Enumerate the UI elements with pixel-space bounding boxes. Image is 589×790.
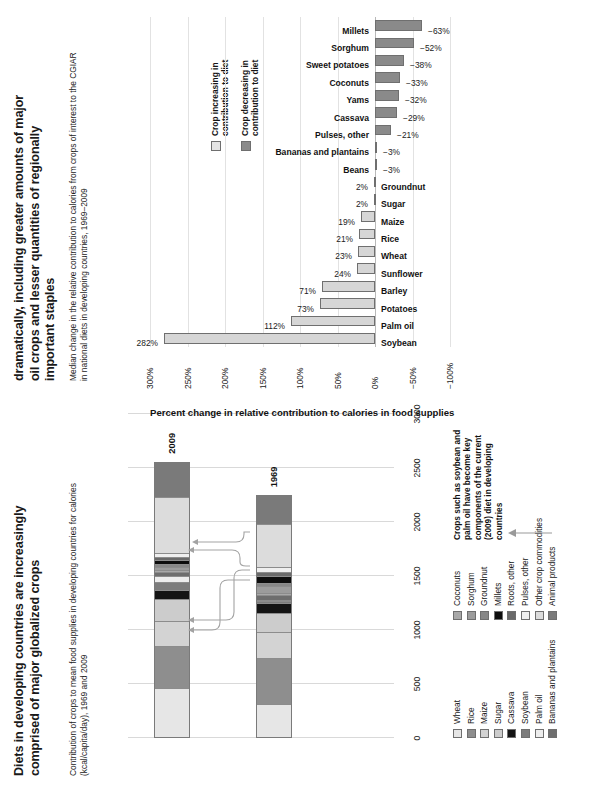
stacked-chart-callout: Crops such as soybean and palm oil have …	[452, 420, 504, 540]
percent-bar-category-label: Wheat	[381, 251, 407, 261]
legend-swatch	[548, 611, 557, 620]
legend-item[interactable]: Bananas and plantains	[547, 640, 557, 738]
legend-item[interactable]: Soybean	[520, 640, 530, 738]
percent-bar-value-label: 19%	[338, 217, 355, 227]
legend-item[interactable]: Maize	[479, 640, 489, 738]
legend-swatch	[480, 729, 489, 738]
stacked-segment	[257, 705, 291, 737]
legend-swatch	[467, 611, 476, 620]
legend-swatch	[494, 729, 503, 738]
stacked-segment	[155, 583, 189, 591]
legend-item[interactable]: Wheat	[452, 640, 462, 738]
percent-bar-value-label: 2%	[355, 199, 367, 209]
percent-bar	[358, 246, 375, 257]
percent-legend-swatch	[211, 141, 221, 151]
legend-swatch	[548, 729, 557, 738]
percent-bar-category-label: Coconuts	[329, 78, 369, 88]
stacked-chart-panel: Diets in developing countries are increa…	[0, 395, 589, 790]
percent-y-tick: −100%	[445, 363, 455, 389]
percent-gridline	[150, 17, 151, 347]
legend-label: Roots, other	[506, 561, 516, 606]
stacked-bar-row: 1969	[256, 414, 292, 738]
percent-bar	[375, 125, 391, 136]
percent-chart-plot: Crop increasing in contribution to dietC…	[150, 17, 450, 347]
stacked-row-label: 1969	[268, 466, 279, 487]
percent-bar-value-label: −63%	[428, 26, 450, 36]
stacked-segment	[155, 689, 189, 737]
percent-bar	[375, 90, 399, 101]
percent-chart-legend: Crop increasing in contribution to dietC…	[210, 32, 270, 151]
percent-bar-value-label: 282%	[136, 338, 157, 348]
legend-swatch	[521, 729, 530, 738]
stacked-x-tick: 2500	[412, 458, 422, 477]
percent-gridline	[225, 17, 226, 347]
legend-item[interactable]: Sugar	[493, 640, 503, 738]
percent-bar	[357, 263, 375, 274]
legend-label: Maize	[479, 702, 489, 724]
percent-bar-value-label: −29%	[403, 113, 425, 123]
stacked-chart-title: Diets in developing countries are increa…	[12, 476, 43, 776]
legend-label: Wheat	[452, 700, 462, 724]
percent-y-tick: −50%	[408, 367, 418, 389]
stacked-segment	[155, 573, 189, 577]
stacked-bar	[154, 462, 190, 738]
percent-y-tick: 150%	[258, 368, 268, 389]
percent-legend-item[interactable]: Crop decreasing in contribution to diet	[240, 32, 261, 151]
percent-bar-category-label: Yams	[347, 95, 369, 105]
stacked-segment	[155, 558, 189, 561]
percent-bar-category-label: Sunflower	[381, 269, 423, 279]
percent-chart-subtitle: Median change in the relative contributi…	[68, 51, 90, 381]
percent-legend-item[interactable]: Crop increasing in contribution to diet	[210, 32, 231, 151]
stacked-x-tick: 2000	[412, 512, 422, 531]
stacked-row-label: 2009	[166, 433, 177, 454]
legend-swatch	[494, 611, 503, 620]
legend-label: Millets	[493, 582, 503, 606]
percent-bar-category-label: Palm oil	[381, 321, 414, 331]
stacked-x-tick: 0	[412, 736, 422, 741]
legend-swatch	[453, 611, 462, 620]
percent-bar-category-label: Millets	[342, 26, 369, 36]
legend-swatch	[507, 611, 516, 620]
percent-chart-title: dramatically, including greater amounts …	[12, 81, 59, 381]
stacked-segment	[257, 601, 291, 602]
stacked-segment	[257, 594, 291, 596]
percent-bar-category-label: Potatoes	[381, 304, 417, 314]
percent-y-tick: 200%	[220, 368, 230, 389]
stacked-segment	[257, 573, 291, 577]
legend-swatch	[467, 729, 476, 738]
percent-bar-category-label: Sweet potatoes	[306, 60, 369, 70]
stacked-bar-row: 2009	[154, 414, 190, 738]
percent-bar	[320, 298, 375, 309]
percent-bar-category-label: Rice	[381, 234, 399, 244]
stacked-x-tick: 500	[412, 677, 422, 691]
percent-legend-swatch	[241, 141, 251, 151]
legend-swatch	[535, 611, 544, 620]
percent-bar	[374, 194, 376, 205]
percent-bar-value-label: −52%	[420, 43, 442, 53]
percent-y-tick: 0%	[370, 377, 380, 389]
stacked-segment	[155, 498, 189, 554]
percent-bar-value-label: −21%	[397, 130, 419, 140]
legend-item[interactable]: Cassava	[506, 640, 516, 738]
stacked-segment	[257, 577, 291, 584]
stacked-chart-plot: 05001000150020002500300020091969	[128, 414, 428, 738]
percent-bar-value-label: 21%	[336, 234, 353, 244]
legend-item[interactable]: Rice	[466, 640, 476, 738]
stacked-segment	[155, 622, 189, 648]
percent-bar	[359, 229, 375, 240]
percent-legend-label: Crop increasing in contribution to diet	[210, 32, 231, 136]
percent-bar-category-label: Maize	[381, 217, 404, 227]
legend-item[interactable]: Palm oil	[534, 640, 544, 738]
percent-y-tick: 100%	[295, 368, 305, 389]
stacked-segment	[257, 659, 291, 705]
percent-bar-category-label: Cassava	[334, 113, 369, 123]
legend-label: Palm oil	[534, 694, 544, 724]
legend-label: Animal products	[547, 547, 557, 607]
percent-bar-category-label: Barley	[381, 286, 407, 296]
percent-bar	[375, 72, 400, 83]
stacked-segment	[257, 614, 291, 633]
stacked-segment	[155, 600, 189, 621]
percent-gridline	[263, 17, 264, 347]
percent-bar-category-label: Groundnut	[381, 182, 425, 192]
legend-column: WheatRiceMaizeSugarCassavaSoybeanPalm oi…	[452, 640, 561, 738]
